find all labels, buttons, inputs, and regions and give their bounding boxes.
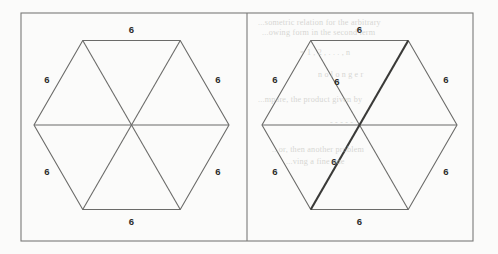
right-side-label-upper-left: 6 xyxy=(272,74,277,85)
right-side-label-lower-right: 6 xyxy=(443,166,448,177)
left-side-label-bottom: 6 xyxy=(129,216,134,227)
right-side-label-lower-left: 6 xyxy=(272,166,277,177)
figure-canvas: ...sometric relation for the arbitrary..… xyxy=(0,0,498,254)
hexagon-figure-svg: 66666666666666 xyxy=(0,0,498,254)
left-side-label-lower-right: 6 xyxy=(215,166,220,177)
left-side-label-upper-left: 6 xyxy=(44,74,49,85)
right-side-label-upper-right: 6 xyxy=(443,74,448,85)
hexagon-group xyxy=(34,41,457,210)
left-side-label-upper-right: 6 xyxy=(215,74,220,85)
hexagon-right xyxy=(262,41,457,210)
right-diagonal-label-upper: 6 xyxy=(334,76,339,87)
left-side-label-top: 6 xyxy=(129,24,134,35)
hexagon-left xyxy=(34,41,229,210)
left-side-label-lower-left: 6 xyxy=(44,166,49,177)
right-side-label-bottom: 6 xyxy=(357,216,362,227)
right-side-label-top: 6 xyxy=(357,24,362,35)
right-diagonal-label-lower: 6 xyxy=(331,156,336,167)
